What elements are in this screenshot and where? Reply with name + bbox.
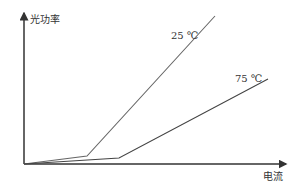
y-axis-label: 光功率 bbox=[30, 15, 60, 25]
chart-canvas bbox=[0, 0, 304, 192]
x-axis-label: 电流 bbox=[263, 172, 283, 182]
curve-25c-label: 25 ℃ bbox=[171, 31, 198, 41]
curve-75c-label: 75 ℃ bbox=[235, 74, 262, 84]
